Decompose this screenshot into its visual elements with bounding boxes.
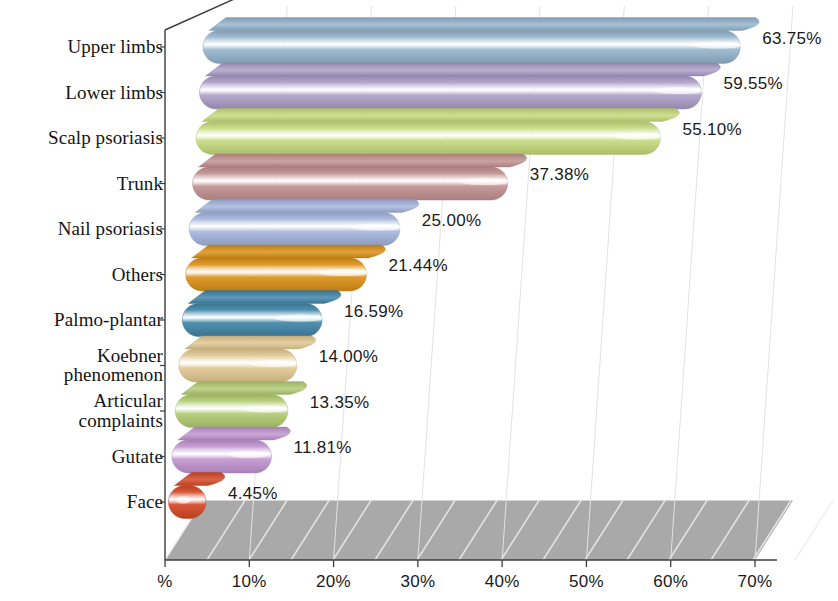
bars	[168, 18, 759, 519]
plot-area	[0, 0, 838, 601]
x-tick-label: 20%	[316, 572, 351, 592]
x-tick-label: 30%	[400, 572, 435, 592]
value-label: 4.45%	[228, 484, 278, 504]
value-label: 55.10%	[682, 120, 741, 140]
x-tick-label: 40%	[485, 572, 520, 592]
floor-plane	[165, 501, 833, 561]
value-label: 13.35%	[310, 393, 369, 413]
value-label: 16.59%	[344, 302, 403, 322]
value-label: 11.81%	[293, 438, 351, 458]
x-tick-label: 50%	[569, 572, 604, 592]
value-label: 14.00%	[319, 347, 378, 367]
value-label: 21.44%	[388, 256, 447, 276]
value-label: 37.38%	[530, 165, 589, 185]
value-label: 59.55%	[723, 74, 782, 94]
value-label: 63.75%	[762, 29, 821, 49]
x-tick-label: 60%	[653, 572, 688, 592]
x-tick-label: 70%	[738, 572, 773, 592]
x-tick-label: %	[157, 572, 172, 592]
value-label: 25.00%	[422, 211, 481, 231]
x-tick-label: 10%	[232, 572, 267, 592]
bar-chart: Upper limbsLower limbsScalp psoriasisTru…	[0, 0, 838, 601]
